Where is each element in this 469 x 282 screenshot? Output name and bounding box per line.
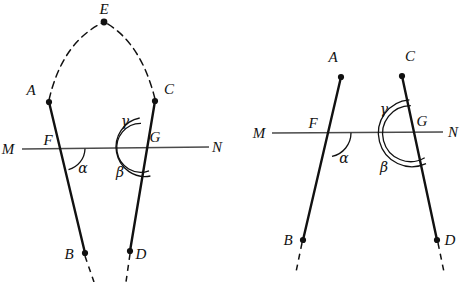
point-label-G: G xyxy=(417,113,428,129)
point-label-A: A xyxy=(25,82,36,98)
line-MN xyxy=(272,132,443,133)
angle-label-alpha: α xyxy=(78,160,88,176)
point-dot-C xyxy=(399,73,405,79)
line-label-N: N xyxy=(447,124,459,140)
point-dot-C xyxy=(152,98,158,104)
angle-label-gamma: γ xyxy=(121,113,130,129)
point-dot-A xyxy=(46,99,52,105)
point-dot-B xyxy=(300,237,306,243)
angle-label-beta: β xyxy=(379,159,388,175)
point-label-C: C xyxy=(405,48,416,64)
line-label-M: M xyxy=(252,125,267,141)
point-label-D: D xyxy=(135,246,147,262)
point-dot-E xyxy=(101,19,108,26)
point-label-C: C xyxy=(164,81,175,97)
point-label-D: D xyxy=(444,232,456,248)
point-dot-A xyxy=(338,74,344,80)
line-label-N: N xyxy=(211,139,223,155)
point-label-B: B xyxy=(283,232,292,248)
point-dot-D xyxy=(434,237,440,243)
angle-label-gamma: γ xyxy=(380,101,389,117)
line-label-M: M xyxy=(1,141,16,157)
point-dot-D xyxy=(127,248,133,254)
point-dot-B xyxy=(82,250,88,256)
point-label-G: G xyxy=(150,129,161,145)
point-label-F: F xyxy=(42,132,53,148)
geometry-diagram-canvas: A B C D E F G M N α β γ xyxy=(0,0,469,282)
point-label-E: E xyxy=(98,1,108,17)
angle-label-beta: β xyxy=(115,164,124,180)
point-label-A: A xyxy=(327,49,338,65)
angle-label-alpha: α xyxy=(339,150,349,166)
geometry-figure-root: A B C D E F G M N α β γ xyxy=(0,0,469,282)
point-label-F: F xyxy=(307,115,318,131)
canvas-background xyxy=(0,0,469,282)
point-label-B: B xyxy=(64,246,73,262)
